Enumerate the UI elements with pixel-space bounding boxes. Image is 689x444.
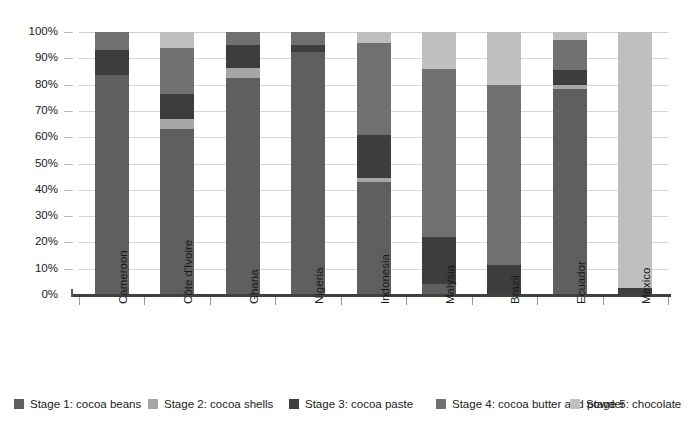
legend-item-stage-3[interactable]: Stage 3: cocoa paste (289, 396, 413, 412)
x-axis-tick-mark (144, 297, 145, 305)
x-axis-label-text: Ecuador (575, 261, 587, 304)
x-axis-label-text: Côte d'Ivoire (182, 240, 194, 304)
bar-segment-stage-2[interactable] (553, 85, 587, 89)
legend-item-stage-5[interactable]: Stage 5: chocolate (570, 396, 681, 412)
legend-swatch-icon (148, 399, 158, 409)
bar-segment-stage-5[interactable] (618, 32, 652, 288)
y-axis-tick-label: 60% (12, 131, 58, 143)
bar-segment-stage-2[interactable] (357, 178, 391, 182)
bar-segment-stage-4[interactable] (226, 32, 260, 45)
bar-segment-stage-3[interactable] (95, 50, 129, 75)
y-axis-tick-mark (64, 32, 73, 33)
bar-mexico[interactable] (618, 32, 652, 295)
x-axis-label-text: Ghana (248, 269, 260, 304)
x-axis-tick-mark (537, 297, 538, 305)
x-axis-label-text: Mexico (640, 268, 652, 304)
x-axis-tick-mark (79, 297, 80, 305)
legend-item-stage-1[interactable]: Stage 1: cocoa beans (14, 396, 141, 412)
y-axis-tick-label: 70% (12, 105, 58, 117)
bar-segment-stage-5[interactable] (160, 32, 194, 48)
bar-segment-stage-4[interactable] (291, 32, 325, 45)
bar-segment-stage-4[interactable] (95, 32, 129, 50)
x-axis-label-text: Cameroon (117, 250, 129, 304)
chart-legend: Stage 1: cocoa beansStage 2: cocoa shell… (0, 396, 689, 418)
x-axis-tick-mark (603, 297, 604, 305)
legend-item-stage-2[interactable]: Stage 2: cocoa shells (148, 396, 273, 412)
y-axis-tick-mark (64, 58, 73, 59)
x-axis-tick-mark (341, 297, 342, 305)
legend-label: Stage 3: cocoa paste (305, 398, 413, 411)
x-axis-tick-mark (210, 297, 211, 305)
y-axis-tick-mark (64, 216, 73, 217)
bar-segment-stage-4[interactable] (160, 48, 194, 94)
y-axis-tick-mark (64, 111, 73, 112)
y-axis-tick-label: 90% (12, 52, 58, 64)
legend-swatch-icon (436, 399, 446, 409)
x-axis-category-labels: CameroonCôte d'IvoireGhanaNigeriaIndones… (79, 300, 668, 385)
y-axis-origin-tick (71, 289, 73, 297)
bar-segment-stage-5[interactable] (553, 32, 587, 40)
y-axis-tick-mark (64, 269, 73, 270)
bar-segment-stage-3[interactable] (553, 70, 587, 84)
y-axis-tick-label: 20% (12, 236, 58, 248)
bar-segment-stage-1[interactable] (226, 78, 260, 295)
y-axis-tick-mark (64, 242, 73, 243)
y-axis-tick-labels: 100%90%80%70%60%50%40%30%20%10%0% (12, 32, 58, 295)
bar-segment-stage-3[interactable] (357, 135, 391, 178)
x-axis-tick-mark (406, 297, 407, 305)
x-axis-label-text: Nigeria (313, 268, 325, 304)
y-axis-tick-label: 40% (12, 184, 58, 196)
bar-segment-stage-2[interactable] (226, 68, 260, 79)
bar-segment-stage-5[interactable] (487, 32, 521, 85)
bar-segment-stage-4[interactable] (357, 43, 391, 135)
x-axis-label-text: Malysia (444, 265, 456, 304)
y-axis-tick-label: 80% (12, 79, 58, 91)
y-axis-tick-mark (64, 190, 73, 191)
bar-segment-stage-4[interactable] (487, 85, 521, 265)
legend-swatch-icon (289, 399, 299, 409)
legend-swatch-icon (14, 399, 24, 409)
bar-segment-stage-1[interactable] (291, 52, 325, 295)
x-axis-tick-mark (275, 297, 276, 305)
bar-segment-stage-3[interactable] (291, 45, 325, 52)
bar-malysia[interactable] (422, 32, 456, 295)
x-axis-label-text: Brazil (509, 275, 521, 304)
stacked-bar-chart: 100%90%80%70%60%50%40%30%20%10%0% Camero… (0, 0, 689, 444)
y-axis-tick-label: 0% (12, 289, 58, 301)
y-axis-tick-label: 10% (12, 263, 58, 275)
bar-segment-stage-5[interactable] (357, 32, 391, 43)
bar-segment-stage-4[interactable] (422, 69, 456, 237)
legend-label: Stage 5: chocolate (586, 398, 681, 411)
plot-area (79, 32, 668, 295)
y-axis-tick-label: 50% (12, 158, 58, 170)
y-axis-tick-mark (64, 164, 73, 165)
legend-label: Stage 2: cocoa shells (164, 398, 273, 411)
bar-nigeria[interactable] (291, 32, 325, 295)
bar-segment-stage-4[interactable] (553, 40, 587, 70)
y-axis-tick-mark (64, 137, 73, 138)
x-axis-label-text: Indonesia (379, 254, 391, 304)
bar-brazil[interactable] (487, 32, 521, 295)
bar-segment-stage-3[interactable] (160, 94, 194, 119)
bar-ecuador[interactable] (553, 32, 587, 295)
bar-segment-stage-5[interactable] (422, 32, 456, 69)
legend-label: Stage 1: cocoa beans (30, 398, 141, 411)
x-axis-tick-mark (668, 297, 669, 305)
legend-swatch-icon (570, 399, 580, 409)
y-axis-tick-label: 30% (12, 210, 58, 222)
bar-segment-stage-2[interactable] (160, 119, 194, 130)
y-axis-tick-label: 100% (12, 26, 58, 38)
bar-segment-stage-3[interactable] (226, 45, 260, 67)
y-axis-tick-mark (64, 85, 73, 86)
x-axis-tick-mark (472, 297, 473, 305)
bar-ghana[interactable] (226, 32, 260, 295)
